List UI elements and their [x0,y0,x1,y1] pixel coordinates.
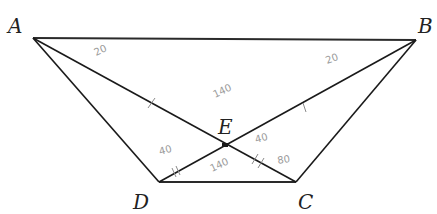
angle-annotation-c: 80 [276,153,290,166]
angle-annotation-b: 20 [324,51,340,66]
vertex-label-a: A [6,14,22,38]
angle-annotation-aed: 40 [158,143,173,157]
angle-annotation-bec: 40 [254,131,269,145]
vertex-label-d: D [132,190,149,214]
tick-mark-be [303,103,306,112]
tick-mark-ec-2 [258,158,264,168]
tick-mark-ae [148,98,155,108]
angle-annotation-a: 20 [92,42,108,57]
vertex-label-e: E [217,115,233,139]
trapezoid-diagram: A B C D E 20 20 140 40 40 140 80 [0,0,437,214]
diagonal-ac [33,38,296,182]
angle-annotation-dec: 140 [208,156,230,174]
segment-ab [33,38,416,40]
angle-annotation-aeb: 140 [211,82,233,100]
segment-cb [296,40,416,182]
segment-ad [33,38,159,182]
vertex-label-b: B [417,14,433,38]
vertex-label-c: C [298,190,313,214]
intersection-point-e [222,143,228,147]
